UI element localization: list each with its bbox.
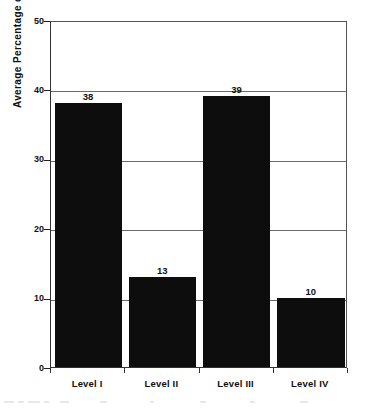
- artifact-mark: [44, 401, 49, 403]
- artifact-mark: [100, 401, 107, 403]
- bar: [203, 96, 270, 367]
- y-axis-tick-labels: 01020304050: [18, 0, 44, 409]
- artifact-mark: [300, 401, 308, 403]
- x-axis-tick-label: Level IV: [273, 378, 347, 389]
- y-axis-tick-mark: [44, 90, 50, 91]
- y-axis-tick-mark: [44, 368, 50, 369]
- artifact-mark: [28, 401, 40, 403]
- x-axis-tick-label: Level III: [199, 378, 273, 389]
- bars-group: 38133910: [51, 22, 346, 367]
- bar-chart: Average Percentage of Minutes 0102030405…: [0, 0, 365, 409]
- bar: [129, 277, 196, 367]
- x-axis-tick-mark: [124, 368, 125, 373]
- x-axis-tick-mark: [199, 368, 200, 373]
- artifact-mark: [250, 401, 255, 403]
- artifact-mark: [18, 401, 24, 403]
- y-axis-tick-mark: [44, 160, 50, 161]
- x-axis-tick-labels: Level ILevel IILevel IIILevel IV: [50, 378, 347, 392]
- y-axis-tick-label: 10: [22, 294, 44, 303]
- y-axis-tick-label: 40: [22, 86, 44, 95]
- x-axis-tick-mark: [273, 368, 274, 373]
- y-axis-tick-label: 20: [22, 225, 44, 234]
- artifact-mark: [4, 401, 14, 403]
- x-axis-tick-marks: [50, 368, 347, 374]
- x-axis-tick-mark: [347, 368, 348, 373]
- artifact-mark: [150, 401, 154, 403]
- bar: [55, 103, 122, 367]
- y-axis-tick-label: 0: [22, 364, 44, 373]
- bar: [277, 298, 344, 367]
- bar-value-label: 38: [55, 92, 122, 102]
- artifact-mark: [60, 401, 69, 403]
- y-axis-tick-mark: [44, 299, 50, 300]
- y-axis-tick-mark: [44, 229, 50, 230]
- y-axis-tick-mark: [44, 21, 50, 22]
- x-axis-tick-label: Level I: [50, 378, 124, 389]
- scan-artifact-strip: [0, 399, 365, 405]
- artifact-mark: [200, 401, 206, 403]
- y-axis-tick-label: 50: [22, 17, 44, 26]
- x-axis-tick-mark: [50, 368, 51, 373]
- x-axis-tick-label: Level II: [124, 378, 198, 389]
- plot-area: 38133910: [50, 21, 347, 368]
- bar-value-label: 39: [203, 85, 270, 95]
- bar-value-label: 10: [277, 287, 344, 297]
- bar-value-label: 13: [129, 266, 196, 276]
- y-axis-tick-label: 30: [22, 155, 44, 164]
